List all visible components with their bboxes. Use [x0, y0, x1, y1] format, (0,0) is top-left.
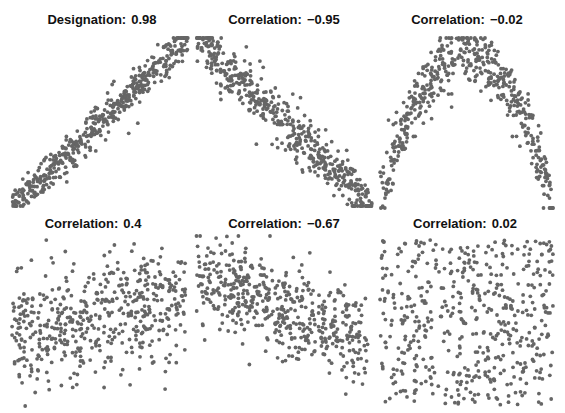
panel-3-point [542, 192, 546, 196]
panel-4-point [138, 341, 142, 345]
panel-4-point [22, 350, 26, 354]
panel-5-point [295, 289, 299, 293]
panel-4-point [16, 359, 20, 363]
panel-5-point [259, 273, 263, 277]
panel-4-point [96, 298, 100, 302]
panel-6-point [400, 369, 404, 373]
panel-6-point [433, 371, 437, 375]
panel-4-point [94, 341, 98, 345]
panel-4-point [158, 270, 162, 274]
panel-3-point [548, 181, 552, 185]
panel-3-point [432, 99, 436, 103]
panel-1-point [107, 130, 111, 134]
panel-6-point [523, 245, 527, 249]
panel-2-point [248, 79, 252, 83]
panel-4-point [147, 308, 151, 312]
panel-5-point [265, 309, 269, 313]
panel-4-point [38, 338, 42, 342]
panel-4-point [78, 314, 82, 318]
panel-4-point [154, 285, 158, 289]
panel-4-point [88, 358, 92, 362]
panel-6-point [544, 324, 548, 328]
panel-5-point [264, 349, 268, 353]
panel-5-point [216, 307, 220, 311]
panel-6-point [450, 270, 454, 274]
panel-3-point [399, 122, 403, 126]
panel-1-point [105, 102, 109, 106]
panel-5-point [197, 255, 201, 259]
panel-4-point [164, 312, 168, 316]
panel-5-point [239, 260, 243, 264]
panel-4-point [29, 324, 33, 328]
panel-4-point [139, 295, 143, 299]
panel-5-point [291, 256, 295, 260]
panel-3-point [450, 92, 454, 96]
panel-1-point [77, 151, 81, 155]
panel-6-point [437, 270, 441, 274]
panel-4-point [38, 292, 42, 296]
panel-5-point [310, 353, 314, 357]
panel-2-point [344, 166, 348, 170]
panel-4-point [66, 288, 70, 292]
panel-5-point [324, 327, 328, 331]
panel-6-point [429, 326, 433, 330]
panel-5-point [219, 275, 223, 279]
panel-5-point [255, 311, 259, 315]
panel-5-point [230, 252, 234, 256]
panel-6-point [533, 307, 537, 311]
panel-6-point [511, 365, 515, 369]
panel-5-point [298, 269, 302, 273]
panel-6-point [488, 281, 492, 285]
panel-4-point [178, 278, 182, 282]
panel-5-point [354, 322, 358, 326]
panel-3-point [443, 64, 447, 68]
panel-4-point [39, 331, 43, 335]
panel-4-point [174, 328, 178, 332]
panel-6-point [394, 392, 398, 396]
panel-1-point [74, 163, 78, 167]
panel-1-point [118, 110, 122, 114]
panel-5-point [252, 316, 256, 320]
panel-5-point [281, 342, 285, 346]
panel-2-point [231, 83, 235, 87]
panel-6-point [542, 293, 546, 297]
panel-1-point [127, 131, 131, 135]
panel-3-point [429, 71, 433, 75]
panel-4-point [74, 311, 78, 315]
panel-2-point [343, 179, 347, 183]
panel-2-point [239, 74, 243, 78]
panel-5-point [226, 329, 230, 333]
panel-4-point [174, 303, 178, 307]
panel-2-point [267, 103, 271, 107]
panel-4-point [31, 333, 35, 337]
panel-5-point [267, 288, 271, 292]
panel-5-point [236, 302, 240, 306]
panel-4-point [69, 307, 73, 311]
panel-6-point [522, 253, 526, 257]
panel-3-point [402, 101, 406, 105]
panel-6-point [523, 361, 527, 365]
panel-5-point [294, 346, 298, 350]
panel-4-point [183, 293, 187, 297]
panel-4-point [151, 259, 155, 263]
panel-1-point [89, 134, 93, 138]
panel-5-point [241, 292, 245, 296]
panel-4-point [118, 308, 122, 312]
panel-2-point [219, 91, 223, 95]
panel-6-point [388, 335, 392, 339]
panel-4-point [20, 337, 24, 341]
panel-6-point [469, 265, 473, 269]
panel-6-point [470, 379, 474, 383]
panel-3-points [378, 36, 555, 210]
panel-2-point [324, 168, 328, 172]
panel-6-point [514, 391, 518, 395]
panel-5-point [203, 267, 207, 271]
panel-2-point [262, 103, 266, 107]
panel-5-point [226, 314, 230, 318]
panel-6-point [541, 377, 545, 381]
panel-6-point [386, 291, 390, 295]
panel-3-point [393, 158, 397, 162]
panel-1-point [132, 93, 136, 97]
panel-4-point [109, 341, 113, 345]
panel-1-point [166, 47, 170, 51]
